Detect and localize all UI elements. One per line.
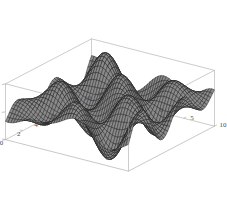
tick-label: 8	[69, 103, 73, 111]
surface-plot-3d-figure: 0246810-10-50510-101	[0, 0, 227, 205]
plot-canvas: 0246810-10-50510-101	[0, 0, 227, 205]
tick-label: 5	[190, 114, 194, 122]
tick-label: 10	[219, 121, 227, 129]
tick-label: 0	[160, 106, 164, 114]
tick-label: 4	[34, 121, 38, 129]
tick-label: 6	[51, 112, 55, 120]
tick-label: -10	[95, 90, 105, 98]
tick-label: -5	[128, 98, 134, 106]
tick-label: 10	[84, 94, 92, 102]
tick-label: 2	[17, 130, 21, 138]
